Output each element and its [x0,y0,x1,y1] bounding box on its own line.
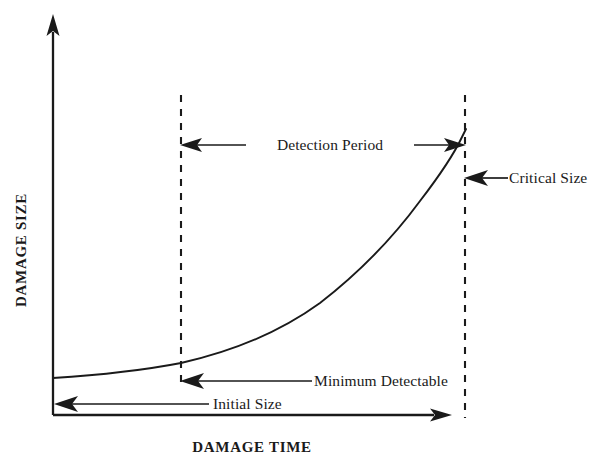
critical-size-label: Critical Size [509,169,587,186]
initial-size-label: Initial Size [213,395,282,412]
damage-growth-curve-group [53,129,466,378]
diagram-canvas: Detection Period Critical Size Minimum D… [0,0,615,466]
detection-period-label: Detection Period [277,136,383,153]
damage-growth-diagram: Detection Period Critical Size Minimum D… [0,0,615,466]
minimum-detectable-annotation: Minimum Detectable [180,372,448,389]
axis-group [47,14,453,422]
damage-growth-curve [53,129,466,378]
initial-size-annotation: Initial Size [54,395,282,412]
x-axis-title: DAMAGE TIME [192,439,312,455]
critical-size-annotation: Critical Size [464,169,587,186]
minimum-detectable-label: Minimum Detectable [314,372,448,389]
detection-period-annotation: Detection Period [180,136,466,153]
y-axis-title: DAMAGE SIZE [13,193,29,307]
